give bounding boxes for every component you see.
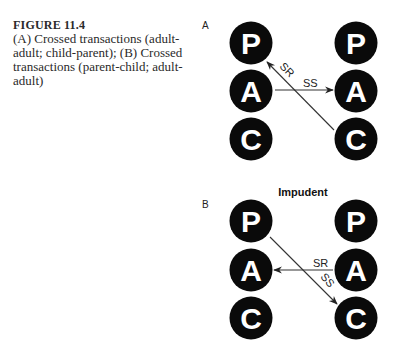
panel-b-right-adult-node: A <box>335 249 378 292</box>
panel-a-right-adult-node: A <box>335 70 378 113</box>
panel-b-left-adult-node: A <box>230 249 273 292</box>
panel-b: B Impudent P A C P A C SS <box>202 186 378 340</box>
svg-text:C: C <box>240 123 262 156</box>
svg-text:P: P <box>241 205 261 238</box>
panel-a: A P A C P A C SS SR <box>202 20 378 161</box>
panel-a-left-child-node: C <box>230 118 273 161</box>
panel-a-right-parent-node: P <box>335 22 378 65</box>
svg-text:P: P <box>346 205 366 238</box>
panel-a-left-parent-node: P <box>230 22 273 65</box>
svg-text:P: P <box>346 27 366 60</box>
panel-b-sr-label: SR <box>313 257 328 269</box>
panel-b-left-parent-node: P <box>230 200 273 243</box>
svg-text:A: A <box>345 75 367 108</box>
svg-text:P: P <box>241 27 261 60</box>
panel-b-right-child-node: C <box>335 297 378 340</box>
panel-a-ss-label: SS <box>303 77 318 89</box>
panel-b-left-child-node: C <box>230 297 273 340</box>
panel-b-right-parent-node: P <box>335 200 378 243</box>
svg-text:A: A <box>345 254 367 287</box>
svg-text:C: C <box>345 302 367 335</box>
svg-text:A: A <box>240 75 262 108</box>
panel-a-sr-arrow <box>267 62 334 130</box>
panel-b-ss-label: SS <box>318 271 337 290</box>
panel-b-label: B <box>202 199 209 210</box>
svg-text:C: C <box>345 123 367 156</box>
panel-a-left-adult-node: A <box>230 70 273 113</box>
svg-text:A: A <box>240 254 262 287</box>
panel-b-heading: Impudent <box>278 186 328 198</box>
transaction-diagrams: A P A C P A C SS SR <box>0 0 418 350</box>
svg-text:C: C <box>240 302 262 335</box>
panel-a-right-child-node: C <box>335 118 378 161</box>
panel-a-label: A <box>202 20 209 31</box>
